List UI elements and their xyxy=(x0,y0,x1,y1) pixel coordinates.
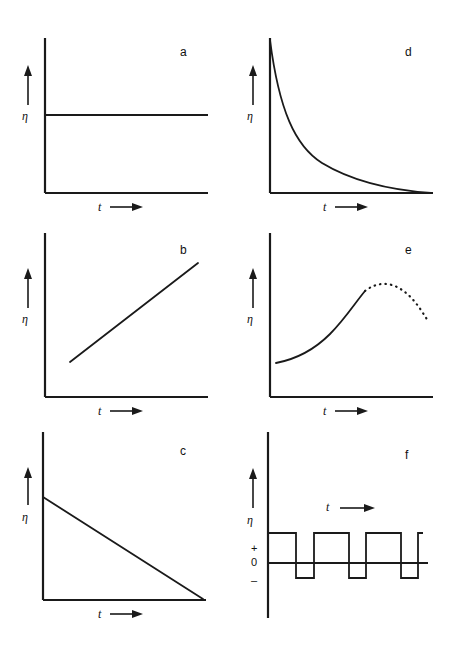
x-axis-label-c: t xyxy=(98,608,101,620)
data-curve-e-solid xyxy=(276,291,365,363)
x-axis-label-b: t xyxy=(98,405,101,417)
panel-c: c η t xyxy=(0,430,225,645)
x-axis-label-d: t xyxy=(323,201,326,213)
x-axis-label-a: t xyxy=(98,201,101,213)
y-axis-arrow-f xyxy=(249,468,257,508)
x-axis-label-e: t xyxy=(323,405,326,417)
y-axis-label-d: η xyxy=(247,110,253,122)
panel-a: a η t xyxy=(0,0,225,215)
panel-label-d: d xyxy=(405,46,412,58)
data-curve-b xyxy=(70,263,198,362)
panel-label-b: b xyxy=(180,244,187,256)
x-axis-arrow-a xyxy=(110,203,143,211)
y-axis-arrow-a xyxy=(24,65,32,105)
panel-label-a: a xyxy=(180,46,187,58)
data-curve-f xyxy=(268,533,423,578)
data-curve-c xyxy=(43,497,203,599)
x-axis-arrow-b xyxy=(110,407,143,415)
data-curve-e-dotted xyxy=(365,284,428,321)
y-axis-label-b: η xyxy=(22,313,28,325)
x-axis-arrow-d xyxy=(335,203,368,211)
y-axis-arrow-e xyxy=(249,268,257,308)
panel-e: e η t xyxy=(225,215,450,430)
panel-b: b η t xyxy=(0,215,225,430)
y-axis-label-a: η xyxy=(22,110,28,122)
x-axis-arrow-e xyxy=(335,407,368,415)
y-axis-label-e: η xyxy=(247,313,253,325)
x-axis-label-f: t xyxy=(326,501,329,513)
figure-container: a η t d η t xyxy=(0,0,451,645)
panel-d: d η t xyxy=(225,0,450,215)
panel-label-e: e xyxy=(405,244,412,256)
data-curve-d xyxy=(270,40,431,193)
x-axis-arrow-c xyxy=(110,610,143,618)
zero-label-f: 0 xyxy=(251,557,257,568)
y-axis-arrow-c xyxy=(24,467,32,505)
y-axis-arrow-b xyxy=(24,268,32,308)
panel-f: f η t + 0 – xyxy=(225,430,450,645)
plus-sign-label-f: + xyxy=(251,543,257,554)
minus-sign-label-f: – xyxy=(251,575,257,586)
x-axis-arrow-f xyxy=(340,504,375,512)
y-axis-arrow-d xyxy=(249,65,257,105)
y-axis-label-f: η xyxy=(247,514,253,526)
y-axis-label-c: η xyxy=(22,511,28,523)
panel-label-f: f xyxy=(405,449,408,461)
panel-label-c: c xyxy=(180,445,186,457)
